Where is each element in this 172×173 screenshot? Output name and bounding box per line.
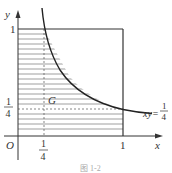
tick-x-one: 1 [120,139,126,151]
origin-label: O [6,139,14,151]
region-label-g: G [48,94,56,106]
hyperbola-curve [42,8,152,114]
svg-text:4: 4 [41,151,46,162]
svg-text:1: 1 [41,138,46,149]
svg-text:1: 1 [162,101,167,111]
diagram-canvas: y x O 1 1 1 4 1 4 G xy= 1 4 图 1-2 [0,0,172,173]
hatch-lines [18,34,123,129]
tick-y-quarter: 1 4 [4,96,13,119]
tick-x-quarter: 1 4 [39,138,48,162]
figure-caption: 图 1-2 [80,164,101,173]
svg-text:1: 1 [6,96,11,107]
x-axis-label: x [154,139,160,151]
y-axis-label: y [4,8,10,20]
svg-text:4: 4 [6,108,11,119]
svg-text:xy=: xy= [142,108,159,119]
x-axis-arrow-icon [155,134,163,139]
svg-text:4: 4 [162,112,167,122]
curve-label: xy= 1 4 [142,101,168,122]
figure: y x O 1 1 1 4 1 4 G xy= 1 4 图 1-2 [0,0,172,173]
tick-y-one: 1 [10,23,16,35]
y-axis-arrow-icon [16,10,21,18]
